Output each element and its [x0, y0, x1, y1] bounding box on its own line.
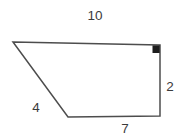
- side-label-bottom: 7: [121, 121, 129, 136]
- side-label-left: 4: [32, 100, 40, 115]
- right-angle-marker-icon: [153, 45, 160, 53]
- quadrilateral-diagram: 10 2 7 4: [0, 0, 182, 137]
- side-label-top: 10: [87, 8, 102, 23]
- figure-canvas: 10 2 7 4: [0, 0, 182, 137]
- side-label-right: 2: [166, 79, 174, 94]
